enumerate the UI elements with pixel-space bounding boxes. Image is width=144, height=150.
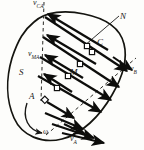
label-body-s: S <box>19 68 24 77</box>
chord-arrow-1 <box>38 76 101 112</box>
figure-canvas: vCA N C vB vMA M S A ω vA <box>0 0 144 150</box>
label-v-ca: vCA <box>33 0 44 9</box>
omega-arc-arrow <box>25 103 42 133</box>
label-point-n: N <box>120 12 126 21</box>
label-point-m: M <box>70 68 78 77</box>
absolute-velocity-arrow-2 <box>45 113 83 129</box>
marker-c <box>84 43 89 48</box>
label-point-c: C <box>97 38 103 47</box>
label-omega: ω <box>43 128 48 136</box>
label-v-ma: vMA <box>28 50 39 60</box>
marker-2 <box>77 61 82 66</box>
marker-3 <box>89 49 94 54</box>
marker-1 <box>54 85 59 90</box>
label-v-a: vA <box>70 135 77 145</box>
label-v-b: vB <box>130 65 137 75</box>
label-point-a: A <box>29 92 35 101</box>
